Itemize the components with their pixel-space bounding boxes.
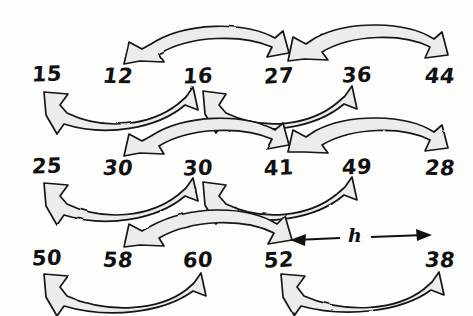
arrow-50-60 bbox=[44, 273, 206, 316]
arrow-52-38 bbox=[281, 272, 444, 316]
value-r3c4: 52 bbox=[264, 247, 295, 273]
arrow-12-27 bbox=[124, 26, 289, 64]
figure-canvas: 15 12 16 27 36 44 25 30 30 41 49 28 50 5… bbox=[0, 0, 473, 316]
value-r3c5: 38 bbox=[423, 248, 457, 272]
value-r2c3: 30 bbox=[182, 156, 214, 181]
gap-label-h: h bbox=[348, 224, 362, 246]
value-r2c2: 30 bbox=[101, 156, 135, 180]
value-r2c1: 25 bbox=[31, 154, 63, 179]
value-r1c2: 12 bbox=[101, 64, 135, 88]
value-r3c3: 60 bbox=[182, 248, 214, 273]
value-r3c1: 50 bbox=[31, 246, 63, 271]
value-r2c5: 49 bbox=[341, 155, 373, 180]
arrow-sketch-layer bbox=[0, 0, 473, 316]
value-r2c4: 41 bbox=[264, 155, 295, 181]
value-r3c2: 58 bbox=[101, 248, 135, 272]
arrow-27-44 bbox=[288, 25, 448, 61]
value-r1c3: 16 bbox=[182, 64, 214, 89]
value-r1c5: 36 bbox=[341, 63, 373, 88]
value-r1c6: 44 bbox=[423, 64, 457, 88]
arrow-41-28 bbox=[288, 118, 448, 153]
value-r2c6: 28 bbox=[423, 156, 457, 180]
value-r1c4: 27 bbox=[264, 63, 295, 89]
value-r1c1: 15 bbox=[31, 62, 63, 87]
